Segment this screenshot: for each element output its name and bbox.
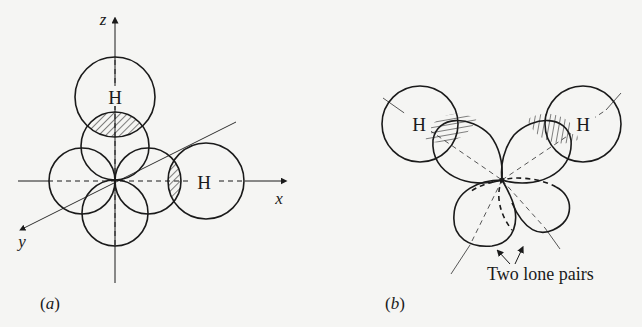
figure-a: H H z x y (a)	[16, 10, 284, 313]
y-axis-label: y	[16, 232, 26, 251]
oxygen-nucleus	[500, 178, 505, 183]
lone-pairs-annotation: Two lone pairs	[487, 264, 594, 284]
x-axis-label: x	[274, 189, 283, 208]
diagram-canvas: H H z x y (a)	[0, 0, 642, 327]
lone-pair-pointer-right	[515, 249, 522, 264]
lone-pair-axis-left-ext	[451, 245, 470, 274]
figure-b: H H Two lone pairs (b)	[382, 86, 621, 313]
lone-pair-pointer-left	[499, 252, 510, 264]
z-axis-label: z	[99, 10, 107, 29]
lone-pair-lobe-back-solid	[512, 187, 570, 232]
hydrogen-label-right: H	[197, 172, 211, 193]
lone-pair-axis-right	[502, 180, 545, 228]
orbital-diagram: H H z x y (a)	[0, 0, 642, 327]
lone-pair-lobe-front	[454, 180, 516, 246]
hydrogen-label-top: H	[108, 87, 122, 108]
hydrogen-label-right: H	[576, 114, 590, 135]
lone-pair-lobe-back-dashed	[499, 178, 556, 230]
caption-a-text: (a)	[40, 294, 60, 313]
caption-b: (b)	[385, 294, 405, 313]
hydrogen-label-left: H	[412, 114, 426, 135]
caption-a: (a)	[40, 294, 60, 313]
